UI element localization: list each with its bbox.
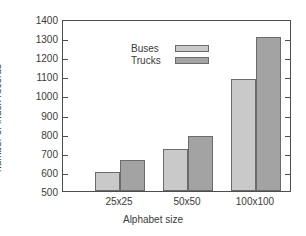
bar-buses-100x100	[231, 79, 256, 191]
y-axis-tick-mark	[63, 136, 68, 137]
legend-label-trucks: Trucks	[131, 55, 173, 66]
y-axis-tick-mark	[285, 97, 290, 98]
bar-trucks-25x25	[120, 160, 145, 191]
y-axis-tick-label: 1100	[36, 72, 58, 83]
legend-label-buses: Buses	[131, 43, 173, 54]
y-axis-tick-mark	[285, 40, 290, 41]
bar-trucks-100x100	[256, 37, 281, 191]
x-axis-tick-label: 25x25	[105, 196, 132, 207]
bar-buses-50x50	[163, 149, 188, 191]
y-axis-tick-label: 700	[41, 148, 58, 159]
legend-swatch-trucks	[175, 57, 209, 64]
y-axis-tick-mark	[63, 59, 68, 60]
y-axis-tick-label: 500	[41, 187, 58, 198]
y-axis-tick-mark	[63, 40, 68, 41]
y-axis-tick-label: 1400	[36, 15, 58, 26]
y-axis-tick-mark	[285, 59, 290, 60]
y-axis-tick-mark	[285, 174, 290, 175]
legend-item-buses: Buses	[131, 43, 209, 54]
y-axis-tick-label: 900	[41, 110, 58, 121]
y-axis-tick-labels: 50060070080090010001100120013001400	[0, 0, 58, 236]
legend-swatch-buses	[175, 45, 209, 52]
y-axis-tick-label: 1300	[36, 34, 58, 45]
y-axis-tick-mark	[63, 97, 68, 98]
y-axis-tick-mark	[63, 117, 68, 118]
y-axis-tick-mark	[63, 78, 68, 79]
y-axis-tick-mark	[285, 117, 290, 118]
x-axis-tick-label: 100x100	[236, 196, 274, 207]
x-axis-tick-label: 50x50	[173, 196, 200, 207]
y-axis-tick-label: 1200	[36, 53, 58, 64]
y-axis-tick-label: 800	[41, 129, 58, 140]
y-axis-tick-mark	[63, 155, 68, 156]
y-axis-tick-mark	[285, 78, 290, 79]
y-axis-tick-label: 1000	[36, 91, 58, 102]
legend-item-trucks: Trucks	[131, 55, 209, 66]
plot-area: Buses Trucks	[62, 20, 291, 192]
y-axis-tick-mark	[285, 136, 290, 137]
y-axis-tick-label: 600	[41, 167, 58, 178]
y-axis-tick-mark	[63, 174, 68, 175]
bar-buses-25x25	[95, 172, 120, 191]
bar-trucks-50x50	[188, 136, 213, 191]
legend: Buses Trucks	[131, 43, 209, 66]
x-axis-title: Alphabet size	[0, 214, 306, 225]
bar-chart: number of index records 5006007008009001…	[0, 0, 306, 236]
y-axis-tick-mark	[285, 155, 290, 156]
